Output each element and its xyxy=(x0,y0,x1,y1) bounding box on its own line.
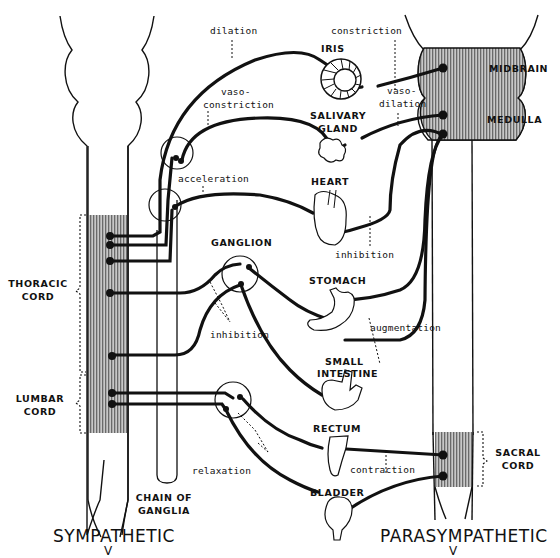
label-gut-inhibition: inhibition xyxy=(210,330,269,340)
label-chain-of: CHAIN OF xyxy=(134,492,194,505)
label-lumbar-cord: LUMBAR CORD xyxy=(10,393,70,419)
thoracic-brace xyxy=(76,215,86,433)
label-vasodilation-2: dilation xyxy=(379,99,426,109)
sacral-brace xyxy=(477,432,487,486)
label-ganglion: GANGLION xyxy=(211,238,272,248)
label-gland: GLAND xyxy=(318,124,358,134)
label-vasodilation-1: vaso- xyxy=(387,86,417,96)
label-ganglia: GANGLIA xyxy=(134,505,194,518)
label-relaxation: relaxation xyxy=(192,466,251,476)
chevron-down-icon: V xyxy=(449,545,458,557)
label-thoracic-cord-word: CORD xyxy=(6,291,70,304)
label-lumbar-cord-word: CORD xyxy=(10,406,70,419)
label-bladder: BLADDER xyxy=(310,488,364,498)
title-sympathetic: SYMPATHETIC xyxy=(53,528,175,545)
label-medulla: MEDULLA xyxy=(487,115,542,125)
label-sacral-cord: SACRAL CORD xyxy=(488,447,548,473)
sympathetic-nerves xyxy=(110,53,338,493)
label-augmentation: augmentation xyxy=(370,323,441,333)
label-sacral: SACRAL xyxy=(488,447,548,460)
heart-icon xyxy=(314,190,346,245)
label-iris: IRIS xyxy=(321,44,345,54)
chevron-down-icon: V xyxy=(104,545,113,557)
rectum-icon xyxy=(328,436,348,476)
label-intestine: INTESTINE xyxy=(317,369,378,379)
label-vasoconstriction-1: vaso- xyxy=(221,87,251,97)
label-chain-of-ganglia: CHAIN OF GANGLIA xyxy=(134,492,194,518)
autonomic-nervous-system-diagram: dilation constriction IRIS vaso- constri… xyxy=(0,0,560,558)
label-small: SMALL xyxy=(325,357,364,367)
label-acceleration: acceleration xyxy=(178,174,249,184)
title-parasympathetic: PARASYMPATHETIC xyxy=(380,528,548,545)
iris-icon xyxy=(321,59,361,99)
label-salivary: SALIVARY xyxy=(310,111,366,121)
label-vasoconstriction-2: constriction xyxy=(203,100,274,110)
label-thoracic: THORACIC xyxy=(6,278,70,291)
label-contraction: contraction xyxy=(350,465,415,475)
label-dilation: dilation xyxy=(210,26,257,36)
label-sacral-cord-word: CORD xyxy=(488,460,548,473)
label-thoracic-cord: THORACIC CORD xyxy=(6,278,70,304)
label-heart: HEART xyxy=(311,177,349,187)
label-stomach: STOMACH xyxy=(309,276,366,286)
salivary-gland-icon xyxy=(319,138,346,162)
stomach-icon xyxy=(308,288,355,330)
label-rectum: RECTUM xyxy=(313,424,361,434)
bladder-icon xyxy=(325,497,352,540)
label-constriction: constriction xyxy=(331,26,402,36)
label-heart-inhibition: inhibition xyxy=(335,250,394,260)
label-lumbar: LUMBAR xyxy=(10,393,70,406)
label-midbrain: MIDBRAIN xyxy=(489,64,548,74)
